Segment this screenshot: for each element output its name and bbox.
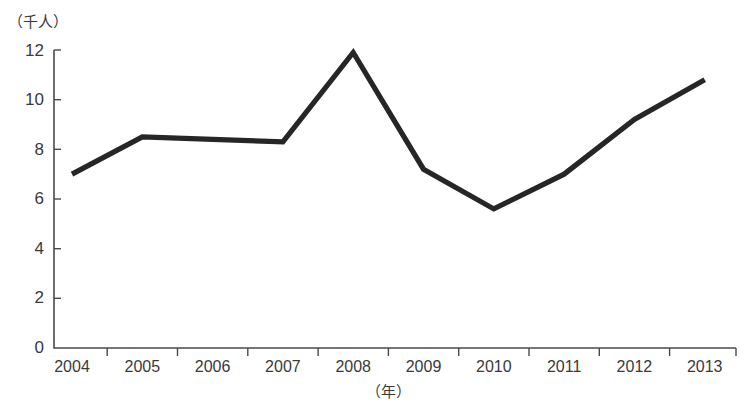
- x-tick-label-2004: 2004: [54, 358, 90, 375]
- x-tick-label-2010: 2010: [476, 358, 512, 375]
- y-tick-label-12: 12: [25, 41, 44, 60]
- axis-lines: [54, 50, 736, 348]
- y-tick-label-10: 10: [25, 90, 44, 109]
- x-tick-label-2013: 2013: [687, 358, 723, 375]
- x-tick-label-2005: 2005: [125, 358, 161, 375]
- y-axis-unit-label: （千人）: [8, 13, 68, 30]
- y-tick-label-4: 4: [35, 239, 44, 258]
- x-tick-label-2009: 2009: [406, 358, 442, 375]
- data-series-line: [72, 52, 705, 208]
- x-tick-label-2007: 2007: [265, 358, 301, 375]
- y-tick-label-2: 2: [35, 288, 44, 307]
- x-tick-label-2006: 2006: [195, 358, 231, 375]
- chart-canvas: （千人） 12 10 8 6 4 2 0 2004 2005 200: [0, 0, 747, 405]
- x-axis-unit-label: （年）: [366, 383, 411, 400]
- y-tick-label-0: 0: [35, 338, 44, 357]
- x-tick-label-2008: 2008: [335, 358, 371, 375]
- line-chart-figure: （千人） 12 10 8 6 4 2 0 2004 2005 200: [0, 0, 747, 405]
- x-tick-label-2011: 2011: [547, 358, 582, 375]
- y-tick-label-8: 8: [35, 140, 44, 159]
- x-tick-label-2012: 2012: [617, 358, 653, 375]
- y-tick-label-6: 6: [35, 189, 44, 208]
